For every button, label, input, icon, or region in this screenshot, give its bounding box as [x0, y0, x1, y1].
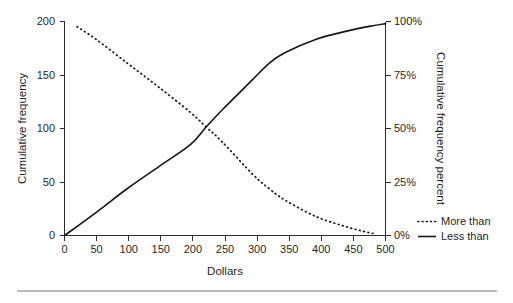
- y-axis-left-tick-50: 50: [43, 176, 55, 188]
- x-axis-tick-200: 200: [184, 243, 202, 255]
- series-line-more-than: [77, 27, 373, 234]
- chart-legend: More than Less than: [418, 215, 491, 242]
- y-axis-left-title: Cumulative frequency: [16, 73, 28, 184]
- x-axis-tick-0: 0: [61, 243, 67, 255]
- x-axis-tick-250: 250: [216, 243, 234, 255]
- y-axis-right-tick-100: 100%: [394, 15, 422, 27]
- x-axis-tick-50: 50: [90, 243, 102, 255]
- y-axis-right-ticks: [386, 22, 391, 236]
- x-axis-tick-100: 100: [120, 243, 138, 255]
- y-axis-left-tick-100: 100: [37, 122, 55, 134]
- y-axis-right-tick-25: 25%: [394, 176, 416, 188]
- footer-divider: [17, 290, 497, 292]
- x-axis-tick-400: 400: [312, 243, 330, 255]
- x-axis-tick-300: 300: [248, 243, 266, 255]
- y-axis-left-tick-150: 150: [37, 69, 55, 81]
- legend-label-less-than: Less than: [441, 230, 489, 242]
- x-axis-tick-450: 450: [344, 243, 362, 255]
- y-axis-right-tick-50: 50%: [394, 122, 416, 134]
- legend-label-more-than: More than: [441, 215, 491, 227]
- x-axis-tick-350: 350: [280, 243, 298, 255]
- x-axis-tick-500: 500: [376, 243, 394, 255]
- x-axis-ticks: [65, 236, 386, 241]
- figure-container: 0 50 100 150 200 Cumulative frequency 0%…: [0, 0, 513, 303]
- x-axis-title: Dollars: [207, 265, 243, 277]
- y-axis-left-tick-200: 200: [37, 15, 55, 27]
- y-axis-left-ticks: [60, 22, 65, 236]
- y-axis-left-tick-0: 0: [49, 229, 55, 241]
- y-axis-right-title: Cumulative frequency percent: [435, 52, 447, 206]
- x-axis-tick-150: 150: [152, 243, 170, 255]
- y-axis-right-tick-0: 0%: [394, 229, 410, 241]
- cumulative-frequency-chart: 0 50 100 150 200 Cumulative frequency 0%…: [0, 0, 513, 303]
- plot-axes-frame: [65, 22, 386, 236]
- y-axis-right-tick-75: 75%: [394, 69, 416, 81]
- series-line-less-than: [65, 24, 386, 236]
